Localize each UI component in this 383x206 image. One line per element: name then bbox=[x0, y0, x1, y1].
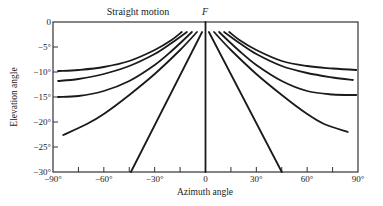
x-tick-label: 60° bbox=[301, 174, 314, 184]
y-tick-label: −15° bbox=[33, 92, 51, 102]
y-tick-label: −20° bbox=[33, 117, 51, 127]
series-line-left-4 bbox=[63, 32, 197, 135]
x-tick-label: −60° bbox=[95, 174, 113, 184]
chart-title: Straight motion bbox=[107, 6, 170, 17]
chart-series bbox=[58, 22, 356, 172]
y-axis-ticks: 0−5°−10°−15°−20°−25°−30° bbox=[33, 17, 58, 177]
series-line-left-2 bbox=[58, 32, 187, 81]
y-tick-label: 0 bbox=[47, 17, 52, 27]
y-tick-label: −5° bbox=[38, 42, 52, 52]
series-line-right-2 bbox=[224, 32, 353, 80]
series-line-right-5 bbox=[209, 32, 282, 172]
y-tick-label: −10° bbox=[33, 67, 51, 77]
elevation-azimuth-chart: Straight motion F 0−5°−10°−15°−20°−25°−3… bbox=[0, 0, 383, 206]
y-tick-label: −25° bbox=[33, 142, 51, 152]
x-tick-label: −30° bbox=[146, 174, 164, 184]
x-tick-label: 30° bbox=[250, 174, 263, 184]
x-tick-label: 0 bbox=[203, 174, 208, 184]
y-axis-title: Elevation angle bbox=[9, 67, 19, 126]
x-axis-ticks: −90°−60°−30°030°60°90° bbox=[44, 167, 365, 184]
series-line-left-5 bbox=[131, 32, 202, 172]
series-line-right-1 bbox=[229, 32, 356, 70]
x-tick-label: −90° bbox=[44, 174, 62, 184]
focus-marker-label: F bbox=[201, 6, 209, 17]
x-axis-title: Azimuth angle bbox=[177, 187, 233, 197]
x-tick-label: 90° bbox=[352, 174, 365, 184]
